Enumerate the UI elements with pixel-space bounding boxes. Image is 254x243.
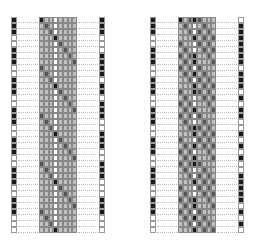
strip-cell <box>99 227 105 233</box>
strip-cell <box>11 227 17 233</box>
dotted-row <box>217 227 237 233</box>
matrix <box>39 17 77 233</box>
left-dotted-rows <box>18 17 38 233</box>
strip-cell <box>150 227 156 233</box>
dotted-row <box>18 227 38 233</box>
right-strip <box>238 17 244 233</box>
right-dotted-rows <box>217 17 237 233</box>
right-dotted-rows <box>78 17 98 233</box>
strip-cell <box>238 227 244 233</box>
matrix-cell <box>211 227 216 233</box>
matrix-cell <box>72 227 77 233</box>
left-strip <box>11 17 17 233</box>
right-strip <box>99 17 105 233</box>
left-strip <box>150 17 156 233</box>
left-dotted-rows <box>157 17 177 233</box>
matrix <box>178 17 216 233</box>
dotted-row <box>78 227 98 233</box>
dotted-row <box>157 227 177 233</box>
